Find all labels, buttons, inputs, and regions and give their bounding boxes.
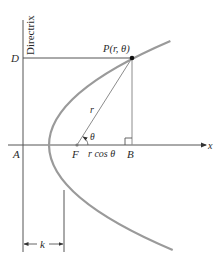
label-x: x: [207, 140, 213, 151]
label-B: B: [127, 148, 134, 160]
segment-FP: [77, 58, 132, 145]
theta-arc: [83, 137, 88, 145]
directrix-label: Directrix: [24, 15, 36, 55]
right-angle-marker: [125, 138, 132, 145]
point-P: [130, 56, 135, 61]
label-F: F: [71, 148, 79, 160]
label-P: P(r, θ): [102, 43, 130, 55]
label-theta: θ: [90, 132, 95, 142]
label-r: r: [90, 104, 94, 115]
label-A: A: [12, 148, 20, 160]
focus-point-F: [75, 143, 78, 146]
diagram-canvas: Directrix D P(r, θ) r θ A F r cos θ B x …: [0, 0, 216, 265]
label-k: k: [40, 238, 46, 250]
label-D: D: [10, 52, 19, 64]
label-rcostheta: r cos θ: [88, 148, 115, 159]
parabola-polar-diagram: Directrix D P(r, θ) r θ A F r cos θ B x …: [0, 0, 216, 265]
